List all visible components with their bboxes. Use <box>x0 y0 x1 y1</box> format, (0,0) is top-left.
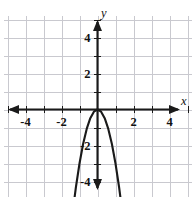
y-tick-label: 2 <box>84 67 90 81</box>
y-tick-label: -2 <box>80 139 90 153</box>
x-tick-label: -4 <box>20 115 31 129</box>
graph-figure: -4-22442-2-4 x y <box>0 0 196 197</box>
x-axis-left-arrowhead <box>8 105 19 114</box>
y-axis-label: y <box>99 6 107 20</box>
y-tick-label: -4 <box>80 175 91 189</box>
x-tick-label: 4 <box>166 115 173 129</box>
x-tick-label: 2 <box>130 115 136 129</box>
x-axis-right-arrowhead <box>169 105 180 114</box>
y-axis-bottom-arrowhead <box>93 179 102 190</box>
x-axis-label: x <box>180 94 187 108</box>
x-tick-label: -2 <box>56 115 66 129</box>
y-tick-label: 4 <box>84 31 91 45</box>
coordinate-plane-svg: -4-22442-2-4 x y <box>0 0 196 197</box>
y-axis-top-arrowhead <box>93 20 102 31</box>
